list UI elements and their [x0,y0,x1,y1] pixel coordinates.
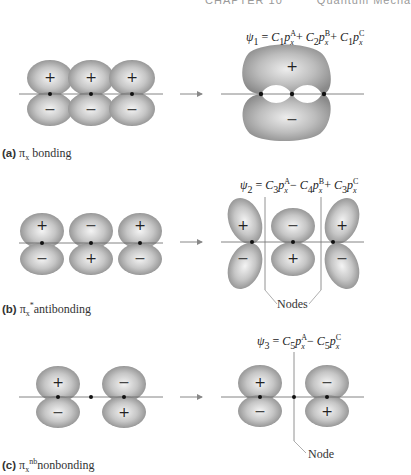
nucleus-dot [292,395,296,399]
phase-sign: + [134,217,146,233]
phase-sign: − [321,374,333,390]
phase-sign: − [336,250,348,266]
operator: − [307,334,314,348]
phase-sign: + [286,58,298,74]
phase-sign: − [44,101,56,117]
atom-label: C [353,178,358,186]
phase-sign: + [36,217,48,233]
panel-c-molecular-orbital: + − − + [221,352,364,453]
phase-sign: + [237,217,249,233]
phase-sign: + [254,374,266,390]
phase-sign: + [52,374,64,390]
phase-sign: − [36,250,48,266]
nucleus-dot [122,395,126,399]
caption-b: (b)πx*antibonding [2,301,91,318]
coefficient: C [300,178,308,192]
equation-psi-2: ψ2 = C3pAx− C4pBx+ C3pCx [240,178,358,195]
phase-sign: − [254,403,266,419]
operator: = [261,30,268,44]
phase-sign: + [321,403,333,419]
axis-label: x [359,39,364,47]
mo-lobe [318,238,366,294]
node-pointer-line [265,290,277,304]
phase-sign: − [85,217,97,233]
phase-sign: + [44,69,56,85]
nucleus-dot [40,241,44,245]
nucleus-dot [89,241,93,245]
panel-b-molecular-orbital: + − + − + − [221,193,366,304]
node-pointer-line [309,290,321,304]
operator: + [296,30,303,44]
caption-sub: x [25,465,29,474]
axis-label: x [336,343,341,351]
nucleus-dot [258,395,262,399]
nucleus-dot [291,240,295,244]
operator: − [290,178,297,192]
caption-a: (a)πx bonding [2,146,71,162]
psi-subscript: 3 [264,340,269,351]
panel-b-left-orbitals: + − + − + − [19,213,163,275]
nucleus-dot [89,395,93,399]
equation-psi-1: ψ1 = C1pAx+ C2pBx+ C1pCx [246,30,364,47]
node-pointer-line [294,441,306,453]
atom-label: C [359,30,364,38]
equation-psi-3: ψ3 = C5pAx− C5pCx [257,334,341,351]
phase-sign: − [118,374,130,390]
panel-a-molecular-orbital: + − [221,45,364,142]
axis-label: x [353,187,358,195]
nucleus-dot [56,395,60,399]
phase-sign: − [237,250,249,266]
phase-sign: − [134,250,146,266]
caption-letter: (c) [2,459,16,471]
caption-sub: x [26,309,30,318]
phase-sign: + [336,217,348,233]
operator: = [255,178,262,192]
caption-letter: (a) [2,147,16,159]
phase-sign: − [126,101,138,117]
phase-sign: + [85,250,97,266]
node-label: Node [308,447,334,462]
nucleus-dot [259,92,263,96]
nucleus-dot [322,92,326,96]
atom-label: C [336,334,341,342]
caption-text: bonding [32,146,71,160]
psi-subscript: 1 [253,36,258,47]
nucleus-dot [290,92,294,96]
mo-lobe [221,238,269,294]
phase-sign: − [287,217,299,233]
caption-letter: (b) [2,303,17,315]
caption-sup: nb [29,457,37,466]
phase-sign: + [85,69,97,85]
psi-subscript: 2 [247,184,252,195]
phase-sign: − [85,101,97,117]
caption-text: nonbonding [37,458,94,472]
coefficient: C [317,334,325,348]
operator: = [272,334,279,348]
nucleus-dot [325,395,329,399]
nucleus-dot [331,240,335,244]
caption-c: (c)πxnbnonbonding [2,457,94,474]
nucleus-dot [48,92,52,96]
nucleus-dot [130,92,134,96]
panel-c-left-orbitals: + − − + [19,366,163,428]
operator: + [330,30,337,44]
caption-sub: x [25,153,29,162]
nucleus-dot [138,241,142,245]
coefficient: C [306,30,314,44]
phase-sign: − [52,404,64,420]
nucleus-dot [89,92,93,96]
phase-sign: + [287,250,299,266]
panel-a-left-orbitals: + + + − − − [19,60,163,126]
coefficient: C [340,30,348,44]
phase-sign: + [126,69,138,85]
operator: + [324,178,331,192]
coefficient: C [334,178,342,192]
phase-sign: + [118,404,130,420]
nucleus-dot [250,240,254,244]
phase-sign: − [286,111,298,127]
nodes-label: Nodes [277,297,308,312]
caption-text: antibonding [34,302,91,316]
